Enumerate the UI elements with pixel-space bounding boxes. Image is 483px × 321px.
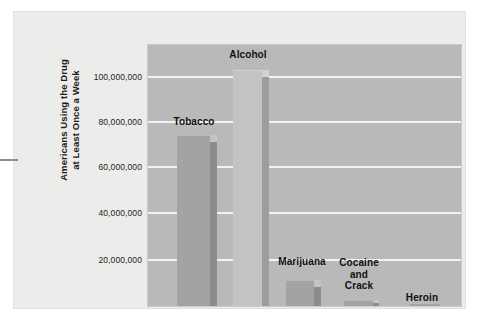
bar-label-tobacco: Tobacco xyxy=(164,116,224,128)
y-tick-label-80m: 80,000,000 xyxy=(68,117,142,127)
bar-label-marijuana: Marijuana xyxy=(272,256,332,268)
y-tick-label-40m: 40,000,000 xyxy=(68,208,142,218)
bar-label-heroin: Heroin xyxy=(396,292,448,304)
bar-alcohol-top xyxy=(262,70,269,77)
y-tick-label-60m: 60,000,000 xyxy=(68,162,142,172)
margin-rule xyxy=(0,159,18,161)
chart-page-sheet: Americans Using the Drug at Least Once a… xyxy=(14,12,465,308)
bar-heroin[interactable] xyxy=(410,304,440,306)
bar-alcohol-side xyxy=(262,77,269,306)
bar-marijuana-side xyxy=(314,287,321,306)
bar-marijuana[interactable] xyxy=(286,280,314,306)
chart-plot-area: Tobacco Alcohol Marijuana Cocaine and Cr… xyxy=(148,45,461,306)
bar-alcohol[interactable] xyxy=(233,70,262,306)
y-tick-label-100m: 100,000,000 xyxy=(68,72,142,82)
page-canvas: Americans Using the Drug at Least Once a… xyxy=(0,0,483,321)
bar-cocaine-face xyxy=(344,300,373,306)
bar-tobacco-face xyxy=(177,135,210,306)
bar-label-cocaine-and-crack: Cocaine and Crack xyxy=(330,257,388,292)
bar-tobacco-top xyxy=(210,135,217,142)
bar-cocaine-top xyxy=(373,300,379,303)
bar-tobacco[interactable] xyxy=(177,135,210,306)
bar-alcohol-face xyxy=(233,70,262,306)
bar-tobacco-side xyxy=(210,142,217,306)
bar-cocaine-and-crack[interactable] xyxy=(344,300,373,306)
y-tick-label-20m: 20,000,000 xyxy=(68,255,142,265)
bar-label-alcohol: Alcohol xyxy=(217,49,279,61)
bar-heroin-face xyxy=(410,304,440,306)
bar-marijuana-face xyxy=(286,280,314,306)
bar-cocaine-side xyxy=(373,303,379,306)
gridline-100m xyxy=(148,76,461,78)
bar-marijuana-top xyxy=(314,280,321,287)
y-axis-tick-labels: 100,000,000 80,000,000 60,000,000 40,000… xyxy=(66,45,142,306)
